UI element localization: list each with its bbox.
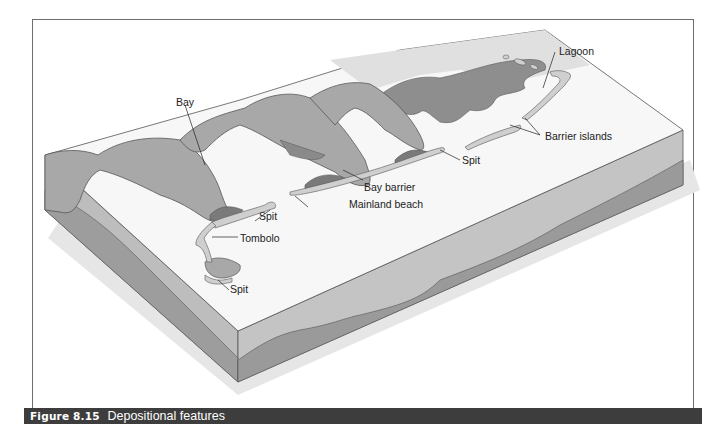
label-bay-barrier: Bay barrier xyxy=(364,181,416,193)
label-spit-middle: Spit xyxy=(259,210,277,222)
label-mainland-beach: Mainland beach xyxy=(349,198,423,210)
figure-number: Figure 8.15 xyxy=(30,410,100,422)
barrier-island-small-3 xyxy=(503,55,509,59)
depositional-features-diagram: Lagoon Barrier islands Spit Bay Bay barr… xyxy=(0,0,725,442)
label-spit-right: Spit xyxy=(462,154,480,166)
label-tombolo: Tombolo xyxy=(240,232,280,244)
label-bay: Bay xyxy=(176,96,195,108)
figure-title: Depositional features xyxy=(107,409,224,423)
figure-caption: Figure 8.15 Depositional features xyxy=(24,408,702,424)
label-lagoon: Lagoon xyxy=(559,45,594,57)
label-spit-lower: Spit xyxy=(230,283,248,295)
label-barrier-islands: Barrier islands xyxy=(545,130,612,142)
